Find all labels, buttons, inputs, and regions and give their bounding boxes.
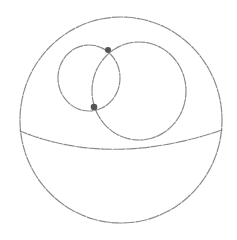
small-circle bbox=[58, 45, 120, 111]
sphere-diagram bbox=[0, 0, 237, 240]
large-circle bbox=[92, 42, 186, 140]
intersection-point-top bbox=[105, 47, 111, 53]
sphere-outline bbox=[20, 17, 222, 223]
intersection-point-bottom bbox=[91, 104, 98, 111]
equator-arc bbox=[20, 130, 222, 149]
